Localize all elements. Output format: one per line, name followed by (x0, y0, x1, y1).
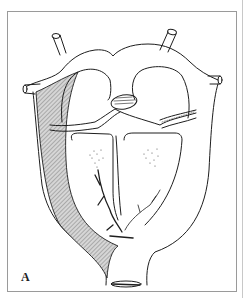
right-ventricle (124, 133, 182, 225)
right-atrium (132, 67, 189, 118)
valve-ring (110, 93, 138, 111)
heart-diagram (0, 0, 245, 298)
stippling (89, 148, 158, 167)
bundle-branch-right (125, 190, 160, 230)
hatched-wall (36, 72, 118, 278)
septal-band (50, 109, 196, 131)
panel-label: A (21, 270, 30, 285)
left-ventricle (71, 133, 118, 220)
